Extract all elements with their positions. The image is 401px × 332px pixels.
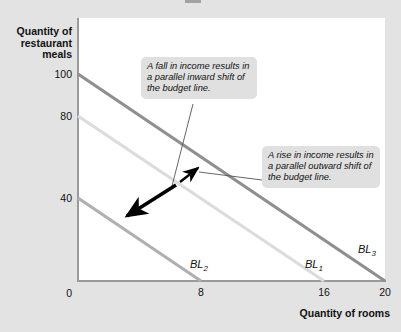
series-label-bl1: BL1 <box>305 258 323 273</box>
y-axis-title-line-3: meals <box>2 49 72 61</box>
series-label-bl3: BL3 <box>358 243 376 258</box>
x-tick-16: 16 <box>309 286 339 298</box>
annotation-callout-fall-in-income: A fall in income results in a parallel i… <box>141 57 257 99</box>
series-label-bl3-text: BL <box>358 243 371 255</box>
series-label-bl2: BL2 <box>190 258 208 273</box>
leader-line-rise <box>199 172 262 180</box>
budget-line-bl2 <box>78 198 201 281</box>
inward-shift-arrow <box>127 185 176 216</box>
budget-line-figure: Quantity of restaurant meals 100 80 40 0… <box>0 0 401 332</box>
y-axis-title: Quantity of restaurant meals <box>2 26 72 61</box>
annotation-callout-rise-in-income: A rise in income results in a parallel o… <box>262 146 380 188</box>
series-label-bl2-text: BL <box>190 258 203 270</box>
budget-line-bl1 <box>78 116 324 281</box>
x-axis-title: Quantity of rooms <box>240 307 390 319</box>
outward-shift-arrow <box>180 168 198 182</box>
x-tick-20: 20 <box>370 286 400 298</box>
series-label-bl1-text: BL <box>305 258 318 270</box>
y-axis-title-line-1: Quantity of <box>2 26 72 38</box>
series-label-bl1-sub: 1 <box>318 264 322 273</box>
x-tick-8: 8 <box>186 286 216 298</box>
series-label-bl3-sub: 3 <box>371 249 375 258</box>
series-label-bl2-sub: 2 <box>203 264 207 273</box>
